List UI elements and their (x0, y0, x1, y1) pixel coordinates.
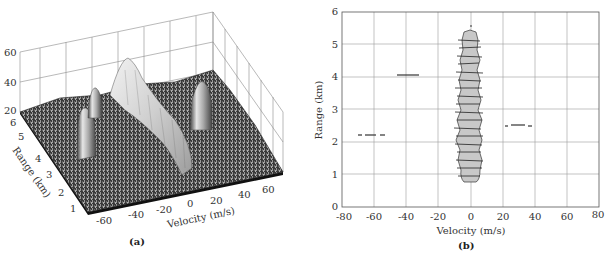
target-markers (358, 75, 532, 135)
z-tick-20: 20 (4, 105, 17, 116)
z-tick-60: 60 (4, 47, 17, 58)
z-axis-ticks: 60 40 20 (4, 47, 17, 116)
svg-text:5: 5 (18, 131, 24, 142)
svg-text:20: 20 (210, 195, 223, 206)
svg-text:6: 6 (332, 6, 338, 17)
clutter-band (454, 26, 483, 182)
svg-text:-20: -20 (430, 211, 446, 222)
svg-text:6: 6 (10, 117, 16, 128)
svg-text:-40: -40 (128, 209, 144, 220)
svg-text:-40: -40 (398, 211, 414, 222)
svg-text:1: 1 (332, 169, 338, 180)
svg-text:4: 4 (332, 71, 338, 82)
svg-text:-60: -60 (366, 211, 382, 222)
svg-text:3: 3 (46, 169, 52, 180)
svg-text:0: 0 (468, 211, 474, 222)
z-tick-40: 40 (4, 77, 17, 88)
x-axis-ticks: -80 -60 -40 -20 0 20 40 60 80 (336, 209, 604, 222)
caption-a: (a) (129, 236, 145, 247)
svg-text:60: 60 (561, 211, 574, 222)
y-axis-ticks: 0 1 2 3 4 5 6 (332, 6, 338, 212)
svg-text:40: 40 (529, 211, 542, 222)
svg-text:5: 5 (332, 39, 338, 50)
svg-text:2: 2 (332, 136, 338, 147)
svg-text:4: 4 (35, 153, 41, 164)
contour-plot-panel: 0 1 2 3 4 5 6 Range (km) -80 -60 -40 -20… (300, 0, 605, 258)
svg-text:-20: -20 (156, 204, 172, 215)
velocity-axis-label: Velocity (m/s) (165, 205, 236, 230)
svg-text:-80: -80 (336, 211, 352, 222)
svg-text:80: 80 (592, 209, 605, 220)
surface-plot: 60 40 20 6 5 4 3 2 1 Range (km) -60 -40 … (0, 0, 300, 258)
svg-text:40: 40 (238, 189, 251, 200)
svg-text:-60: -60 (96, 215, 112, 226)
svg-text:3: 3 (332, 104, 338, 115)
svg-text:1: 1 (70, 203, 76, 214)
contour-plot: 0 1 2 3 4 5 6 Range (km) -80 -60 -40 -20… (300, 0, 605, 258)
svg-text:0: 0 (187, 198, 193, 209)
caption-b: (b) (458, 240, 474, 251)
y-axis-label: Range (km) (313, 80, 324, 139)
svg-text:20: 20 (497, 211, 510, 222)
svg-text:60: 60 (262, 184, 275, 195)
surface-plot-panel: 60 40 20 6 5 4 3 2 1 Range (km) -60 -40 … (0, 0, 300, 258)
x-axis-label: Velocity (m/s) (436, 225, 506, 236)
svg-text:2: 2 (58, 187, 64, 198)
target-peak-left-back (88, 88, 102, 118)
